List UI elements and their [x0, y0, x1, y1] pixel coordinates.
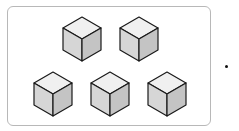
cube-icon: [120, 17, 158, 61]
cube-group: [0, 0, 239, 131]
bullet-dot: [225, 65, 228, 68]
cube-icon: [91, 72, 129, 116]
cube-icon: [34, 72, 72, 116]
cube-icon: [148, 72, 186, 116]
cube-icon: [63, 17, 101, 61]
